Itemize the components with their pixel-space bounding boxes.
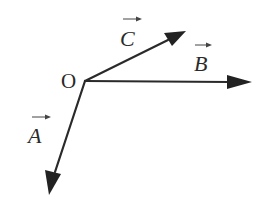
vector-b-label: B [194, 51, 207, 76]
origin-label: O [61, 69, 76, 93]
label-a-group: A [26, 115, 51, 149]
vector-a-label: A [26, 123, 42, 148]
label-c-group: C [120, 17, 142, 52]
arrowhead-b-icon [227, 75, 252, 89]
vector-c [85, 31, 186, 81]
vector-a [45, 81, 85, 195]
vector-b [85, 75, 252, 89]
label-b-group: B [194, 43, 212, 77]
over-arrow-c-icon [136, 17, 142, 22]
over-arrow-a-icon [45, 115, 51, 120]
vector-c-label: C [120, 26, 135, 51]
over-arrow-b-icon [206, 43, 212, 48]
arrowhead-a-icon [45, 170, 61, 195]
vector-diagram: O A B C [0, 0, 264, 207]
arrowhead-c-icon [164, 31, 186, 46]
